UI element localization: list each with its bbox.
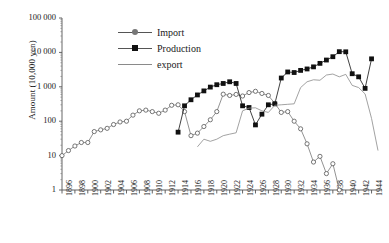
data-point-production [369, 56, 374, 61]
data-point-import [292, 119, 296, 123]
data-point-import [137, 109, 141, 113]
data-point-production [324, 58, 329, 63]
series-line-import [62, 91, 339, 190]
data-point-import [240, 94, 244, 98]
data-point-production [227, 79, 232, 84]
data-point-production [318, 61, 323, 66]
legend-item-export: export [118, 56, 201, 72]
data-point-import [144, 108, 148, 112]
data-point-production [234, 81, 239, 86]
data-point-import [118, 120, 122, 124]
data-point-production [285, 70, 290, 75]
chart-container: Amount (10,000 yen) 100 00010 0001 00010… [0, 0, 389, 243]
data-point-production [330, 54, 335, 59]
data-point-import [189, 134, 193, 138]
data-point-import [86, 140, 90, 144]
legend-label-export: export [157, 59, 183, 70]
legend-item-production: Production [118, 40, 201, 56]
legend-label-import: Import [157, 27, 184, 38]
data-point-import [111, 122, 115, 126]
data-point-production [311, 64, 316, 69]
data-point-production [208, 85, 213, 90]
data-point-import [299, 127, 303, 131]
data-point-production [343, 49, 348, 54]
data-point-import [105, 126, 109, 130]
data-point-import [150, 110, 154, 114]
legend-item-import: Import [118, 24, 201, 40]
data-point-import [221, 92, 225, 96]
data-point-production [189, 97, 194, 102]
data-point-import [318, 154, 322, 158]
data-point-import [163, 108, 167, 112]
data-point-import [170, 103, 174, 107]
data-point-production [266, 102, 271, 107]
data-point-production [176, 130, 181, 135]
data-point-import [324, 171, 328, 175]
data-point-import [66, 148, 70, 152]
data-point-production [260, 112, 265, 117]
data-point-import [215, 110, 219, 114]
data-point-import [311, 160, 315, 164]
data-point-import [157, 111, 161, 115]
data-point-import [279, 110, 283, 114]
data-point-import [60, 154, 64, 158]
data-point-import [208, 118, 212, 122]
data-point-production [356, 74, 361, 79]
data-point-import [260, 91, 264, 95]
data-point-production [240, 103, 245, 108]
data-point-import [253, 89, 257, 93]
data-point-production [305, 67, 310, 72]
data-point-production [221, 81, 226, 86]
data-point-production [182, 103, 187, 108]
data-point-import [266, 93, 270, 97]
data-point-import [228, 93, 232, 97]
export-legend-icon [118, 58, 152, 70]
data-point-import [176, 103, 180, 107]
data-point-production [292, 70, 297, 75]
data-point-import [337, 188, 341, 192]
data-point-import [247, 90, 251, 94]
legend-label-production: Production [157, 43, 201, 54]
data-point-import [73, 144, 77, 148]
data-point-import [234, 92, 238, 96]
data-point-production [298, 68, 303, 73]
data-point-production [337, 49, 342, 54]
data-point-import [124, 119, 128, 123]
data-point-production [253, 123, 258, 128]
series-line-production [178, 52, 371, 133]
data-point-production [279, 76, 284, 81]
data-point-import [202, 124, 206, 128]
data-point-import [131, 113, 135, 117]
data-point-import [195, 131, 199, 135]
data-point-production [363, 86, 368, 91]
data-point-import [99, 128, 103, 132]
data-point-production [201, 89, 206, 94]
data-point-import [92, 129, 96, 133]
data-point-import [305, 142, 309, 146]
data-point-import [331, 162, 335, 166]
data-point-import [79, 140, 83, 144]
production-legend-icon [118, 42, 152, 54]
data-point-production [350, 71, 355, 76]
data-point-production [214, 82, 219, 87]
data-point-production [195, 93, 200, 98]
chart-legend: Import Production export [118, 24, 201, 72]
import-legend-icon [118, 26, 152, 38]
data-point-import [286, 110, 290, 114]
